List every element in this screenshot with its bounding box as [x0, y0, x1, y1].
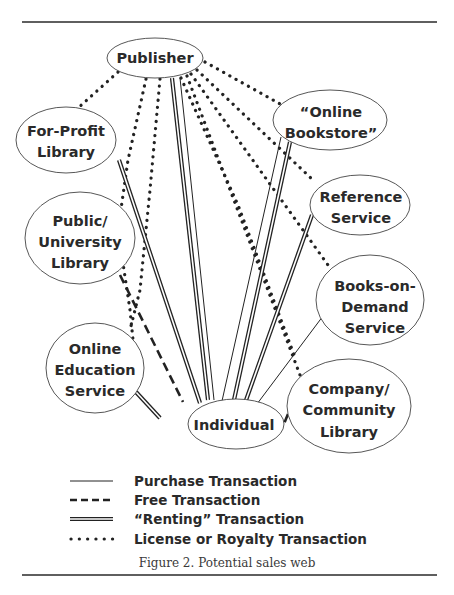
node-label: Bookstore” — [285, 125, 378, 141]
edge-purchase-bookstore-individual — [222, 137, 281, 401]
legend: Purchase Transaction Free Transaction “R… — [70, 473, 367, 547]
node-public-university-library: Public/ University Library — [25, 192, 135, 284]
node-online-education-service: Online Education Service — [46, 323, 144, 413]
node-label: Service — [331, 210, 391, 226]
sales-web-diagram: Publisher For-Profit Library “Online Boo… — [0, 0, 454, 595]
node-label: Publisher — [116, 50, 194, 66]
legend-label: “Renting” Transaction — [134, 511, 304, 527]
node-for-profit-library: For-Profit Library — [16, 107, 116, 173]
node-individual: Individual — [188, 399, 284, 449]
node-label: Library — [51, 255, 110, 271]
node-label: Library — [320, 424, 379, 440]
edge-license-publisher-forprofit — [78, 72, 118, 108]
node-books-on-demand-service: Books-on- Demand Service — [316, 255, 424, 345]
legend-item-free: Free Transaction — [70, 492, 260, 508]
node-label: Public/ — [52, 213, 108, 229]
node-reference-service: Reference Service — [310, 175, 410, 235]
node-publisher: Publisher — [107, 38, 203, 78]
node-label: Demand — [341, 299, 408, 315]
legend-label: Free Transaction — [134, 492, 260, 508]
node-online-bookstore: “Online Bookstore” — [273, 90, 387, 150]
node-label: Service — [65, 383, 125, 399]
node-label: Service — [345, 320, 405, 336]
node-label: Community — [303, 402, 396, 418]
node-label: Online — [69, 341, 122, 357]
node-label: For-Profit — [27, 123, 105, 139]
node-label: Library — [37, 144, 96, 160]
node-label: Individual — [194, 417, 275, 433]
legend-item-purchase: Purchase Transaction — [70, 473, 297, 489]
legend-label: License or Royalty Transaction — [134, 531, 367, 547]
node-label: Books-on- — [334, 278, 416, 294]
node-company-community-library: Company/ Community Library — [287, 359, 411, 453]
legend-label: Purchase Transaction — [134, 473, 297, 489]
edge-license-publisher-bookstore — [205, 62, 282, 105]
figure-caption: Figure 2. Potential sales web — [139, 556, 316, 570]
node-label: “Online — [300, 104, 362, 120]
legend-item-license: License or Royalty Transaction — [71, 531, 367, 547]
node-label: University — [38, 234, 122, 250]
legend-item-renting: “Renting” Transaction — [70, 511, 304, 527]
node-label: Reference — [320, 189, 403, 205]
node-label: Company/ — [309, 381, 391, 397]
node-label: Education — [54, 362, 135, 378]
